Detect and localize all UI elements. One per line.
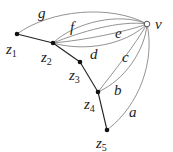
label-edge-a: a: [129, 104, 137, 120]
node-z5: [105, 128, 110, 133]
node-v: [144, 21, 150, 27]
node-z1: [15, 32, 20, 37]
label-edge-c: c: [122, 49, 129, 65]
label-edge-b: b: [114, 82, 122, 98]
label-edge-d: d: [90, 46, 98, 62]
edge-z3-z4: [80, 62, 98, 92]
label-v: v: [155, 16, 162, 32]
node-z4: [96, 90, 101, 95]
edge-g: [17, 12, 147, 34]
edge-f: [53, 19, 147, 43]
label-z1: z1: [5, 41, 17, 59]
label-edge-g: g: [38, 5, 46, 21]
edge-z4-z5: [98, 92, 107, 130]
node-z3: [78, 60, 83, 65]
label-edge-e: e: [115, 25, 122, 41]
label-z4: z4: [83, 96, 95, 114]
edge-d: [53, 24, 147, 47]
label-edge-f: f: [70, 19, 76, 35]
node-z2: [51, 41, 56, 46]
label-z3: z3: [68, 67, 80, 85]
edge-e: [53, 24, 147, 43]
edge-unlabeled: [53, 23, 147, 43]
graph-diagram: z1 z2 z3 z4 z5 v g f e d c b a: [0, 0, 173, 152]
label-z5: z5: [95, 135, 107, 152]
edge-z1-z2: [17, 34, 53, 43]
label-z2: z2: [40, 49, 52, 67]
